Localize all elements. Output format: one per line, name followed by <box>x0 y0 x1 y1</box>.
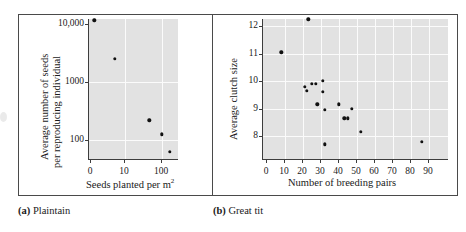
caption-plaintain-text: Plaintain <box>33 205 70 216</box>
data-point <box>337 103 340 106</box>
y-axis-tick <box>259 26 262 27</box>
gridline-vertical <box>321 19 322 159</box>
gridline-horizontal <box>89 140 178 141</box>
gridline-vertical <box>285 19 286 159</box>
y-axis-tick-label: 8 <box>236 131 258 141</box>
x-axis-tick <box>302 160 303 163</box>
caption-plaintain-letter: (a) <box>18 205 30 216</box>
data-point <box>93 19 96 22</box>
y-axis-label-great-tit: Average clutch size <box>228 58 239 140</box>
y-axis-tick-label: 9 <box>236 104 258 114</box>
data-point <box>305 89 308 92</box>
x-axis-tick <box>392 160 393 163</box>
data-point <box>307 17 310 20</box>
x-axis-tick-label: 100 <box>154 167 168 177</box>
data-point <box>420 140 423 143</box>
x-axis-tick-label: 90 <box>423 167 433 177</box>
plot-area-great-tit <box>262 19 448 160</box>
x-axis-tick <box>428 160 429 163</box>
y-axis-tick <box>259 54 262 55</box>
y-axis-tick-label: 11 <box>236 49 258 59</box>
y-axis-tick-label: 100 <box>40 135 84 145</box>
x-axis-tick-label: 60 <box>369 167 379 177</box>
x-axis-tick <box>284 160 285 163</box>
gridline-horizontal <box>263 109 448 110</box>
caption-plaintain: (a) Plaintain <box>18 205 70 216</box>
caption-great-tit: (b) Great tit <box>213 205 263 216</box>
x-axis-label-plaintain-superscript: 2 <box>171 177 175 185</box>
y-axis-label-plaintain-line2: per reproducing individual <box>51 56 62 168</box>
y-axis-tick-label: 10 <box>236 76 258 86</box>
x-axis-tick <box>374 160 375 163</box>
y-axis-tick <box>259 136 262 137</box>
gridline-vertical <box>162 19 163 159</box>
gridline-horizontal <box>263 26 448 27</box>
gridline-vertical <box>303 19 304 159</box>
x-axis-tick <box>161 160 162 163</box>
x-axis-tick-label: 10 <box>279 167 289 177</box>
data-point <box>314 82 317 85</box>
y-axis-tick <box>259 81 262 82</box>
x-axis-tick-label: 0 <box>88 167 93 177</box>
y-axis-tick-label: 1000 <box>40 77 84 87</box>
x-axis-tick <box>90 160 91 163</box>
x-axis-tick <box>410 160 411 163</box>
x-axis-tick <box>338 160 339 163</box>
y-axis-tick <box>85 24 88 25</box>
gridline-vertical <box>125 19 126 159</box>
x-axis-tick <box>266 160 267 163</box>
x-axis-tick <box>320 160 321 163</box>
data-point <box>323 143 326 146</box>
y-axis-tick <box>85 82 88 83</box>
x-axis-tick-label: 10 <box>119 167 129 177</box>
page-edge-artifact <box>0 112 7 122</box>
data-point <box>303 85 306 88</box>
x-axis-tick-label: 50 <box>351 167 361 177</box>
x-axis-tick-label: 20 <box>297 167 307 177</box>
x-axis-tick-label: 30 <box>315 167 325 177</box>
x-axis-tick-label: 70 <box>387 167 397 177</box>
gridline-vertical <box>357 19 358 159</box>
data-point <box>350 107 353 110</box>
gridline-horizontal <box>263 136 448 137</box>
gridline-vertical <box>411 19 412 159</box>
data-point <box>316 103 319 106</box>
x-axis-tick <box>124 160 125 163</box>
data-point <box>359 130 362 133</box>
x-axis-label-great-tit: Number of breeding pairs <box>288 177 396 188</box>
data-point <box>113 57 116 60</box>
x-axis-tick-label: 80 <box>405 167 415 177</box>
caption-great-tit-letter: (b) <box>213 205 226 216</box>
x-axis-tick-label: 0 <box>264 167 269 177</box>
figure-container: Average number of seeds per reproducing … <box>0 0 466 232</box>
data-point <box>160 133 163 136</box>
gridline-horizontal <box>263 81 448 82</box>
data-point <box>323 108 326 111</box>
gridline-vertical <box>375 19 376 159</box>
data-point <box>346 116 349 119</box>
gridline-vertical <box>393 19 394 159</box>
gridline-horizontal <box>89 82 178 83</box>
data-point <box>321 79 324 82</box>
x-axis-tick-label: 40 <box>333 167 343 177</box>
y-axis-tick <box>85 140 88 141</box>
data-point <box>321 90 324 93</box>
gridline-horizontal <box>263 54 448 55</box>
caption-great-tit-text: Great tit <box>228 205 263 216</box>
data-point <box>168 150 171 153</box>
x-axis-label-plaintain-text: Seeds planted per m <box>86 179 171 190</box>
gridline-vertical <box>339 19 340 159</box>
y-axis-tick-label: 12 <box>236 21 258 31</box>
y-axis-tick-label: 10,000 <box>40 19 84 29</box>
y-axis-tick <box>259 109 262 110</box>
gridline-vertical <box>429 19 430 159</box>
plot-area-plaintain <box>88 19 178 160</box>
data-point <box>147 118 150 121</box>
x-axis-label-plaintain: Seeds planted per m2 <box>86 177 174 190</box>
x-axis-tick <box>356 160 357 163</box>
